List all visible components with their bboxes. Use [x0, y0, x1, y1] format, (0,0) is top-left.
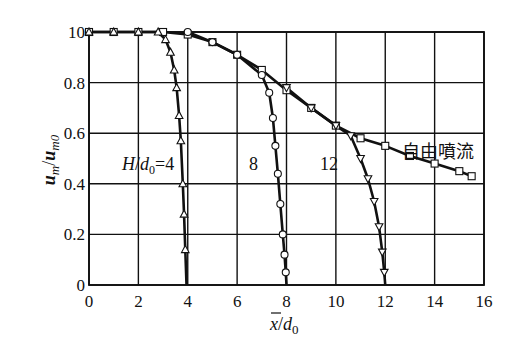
data-point-marker — [234, 51, 241, 58]
data-point-marker — [209, 39, 216, 46]
data-point-marker — [173, 84, 181, 91]
y-tick-label: 0.2 — [64, 225, 85, 244]
x-tick-label: 2 — [134, 292, 143, 311]
data-point-marker — [357, 156, 365, 163]
data-point-marker — [468, 173, 475, 180]
y-tick-label: 0.4 — [64, 175, 86, 194]
x-tick-label: 6 — [233, 292, 242, 311]
data-point-marker — [382, 142, 389, 149]
x-tick-label: 0 — [85, 292, 94, 311]
x-tick-label: 14 — [426, 292, 444, 311]
x-tick-label: 4 — [184, 292, 193, 311]
data-point-marker — [269, 115, 276, 122]
data-point-marker — [364, 176, 372, 183]
data-point-marker — [274, 170, 281, 177]
x-tick-label: 16 — [476, 292, 493, 311]
y-tick-label: 0.6 — [64, 124, 85, 143]
y-tick-label: 0.8 — [64, 74, 85, 93]
svg-text:um/um0: um/um0 — [39, 134, 62, 185]
chart: 0246810121416 00.20.40.60.810 H/d0=4 8 1… — [0, 0, 521, 353]
data-point-marker — [277, 201, 284, 208]
y-axis-label: um/um0 — [39, 134, 62, 185]
data-point-marker — [370, 199, 378, 206]
annotation-12: 12 — [320, 154, 338, 174]
data-point-marker — [456, 168, 463, 175]
data-point-marker — [380, 269, 388, 276]
y-tick-label: 0 — [77, 276, 86, 295]
data-point-marker — [184, 29, 191, 36]
y-tick-label: 10 — [68, 23, 85, 42]
data-point-marker — [375, 224, 383, 231]
data-point-marker — [177, 137, 185, 144]
data-point-marker — [357, 135, 364, 142]
svg-text:x/d0: x/d0 — [269, 314, 299, 337]
annotation-8: 8 — [249, 154, 258, 174]
data-point-marker — [281, 251, 288, 258]
data-point-marker — [272, 142, 279, 149]
data-point-marker — [180, 210, 188, 217]
annotation-h-d0-4: H/d0=4 — [121, 154, 174, 177]
data-point-marker — [170, 66, 178, 73]
data-point-marker — [266, 89, 273, 96]
data-point-marker — [175, 111, 183, 118]
x-tick-label: 12 — [377, 292, 394, 311]
x-tick-label: 10 — [327, 292, 344, 311]
annotation-free-jet: 自由噴流 — [402, 142, 474, 162]
data-point-marker — [167, 48, 175, 55]
x-tick-labels: 0246810121416 — [85, 292, 493, 311]
x-axis-label: x/d0 — [269, 313, 299, 337]
data-point-marker — [258, 72, 265, 79]
data-point-marker — [282, 269, 289, 276]
data-point-marker — [279, 231, 286, 238]
y-tick-labels: 00.20.40.60.810 — [64, 23, 86, 295]
x-tick-label: 8 — [282, 292, 291, 311]
